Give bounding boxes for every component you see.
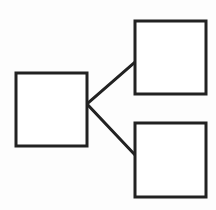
root-node-box <box>16 73 87 146</box>
connector-line-bottom <box>87 104 135 155</box>
diagram-canvas <box>0 0 216 210</box>
tree-diagram <box>0 0 216 210</box>
child-top-node-box <box>135 21 206 94</box>
connector-line-top <box>87 62 135 104</box>
child-bottom-node-box <box>135 123 206 197</box>
